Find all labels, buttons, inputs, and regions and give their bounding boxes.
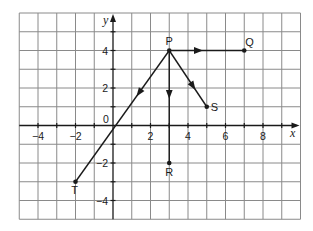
point-label-r: R: [165, 166, 173, 178]
axes: y x 0: [19, 13, 299, 219]
point-label-p: P: [166, 35, 173, 47]
arrowhead-icon: [166, 90, 173, 99]
point-label-s: S: [211, 101, 218, 113]
x-tick-label: −2: [70, 130, 82, 142]
vector-pt: [76, 51, 170, 182]
point-s: [204, 104, 209, 109]
point-q: [242, 48, 247, 53]
arrowhead-icon: [194, 47, 203, 54]
y-tick-label: −4: [96, 195, 108, 207]
x-tick-label: 6: [223, 130, 229, 142]
x-tick-label: −4: [32, 130, 44, 142]
x-tick-label: 8: [260, 130, 266, 142]
origin-label: 0: [103, 113, 109, 125]
y-tick-label: 4: [102, 45, 108, 57]
grid: [19, 13, 300, 219]
coordinate-diagram: y x 0 −4−2246842−2−4 PQSRT: [0, 0, 313, 231]
point-r: [167, 161, 172, 166]
point-label-q: Q: [245, 36, 254, 48]
y-tick-label: 2: [102, 82, 108, 94]
x-tick-label: 4: [185, 130, 191, 142]
point-label-t: T: [71, 184, 78, 196]
y-tick-label: −2: [96, 157, 108, 169]
y-axis-arrow-icon: [110, 14, 116, 22]
arrowhead-icon: [136, 87, 144, 96]
point-p: [167, 48, 172, 53]
y-axis-label: y: [102, 13, 109, 27]
x-axis-arrow-icon: [292, 123, 300, 129]
x-tick-label: 2: [148, 130, 154, 142]
